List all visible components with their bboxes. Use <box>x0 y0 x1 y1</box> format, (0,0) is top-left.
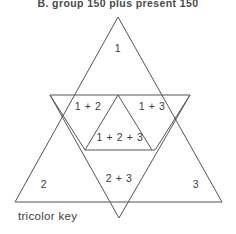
region-label-2-plus-3: 2 + 3 <box>106 172 133 184</box>
tricolor-key-diagram <box>0 0 236 234</box>
inverted-triangle <box>50 95 190 218</box>
region-label-1-plus-3: 1 + 3 <box>139 100 166 112</box>
region-label-1-plus-2: 1 + 2 <box>75 100 102 112</box>
region-label-2: 2 <box>41 178 47 190</box>
figure-caption: tricolor key <box>18 210 77 222</box>
region-label-1-plus-2-plus-3: 1 + 2 + 3 <box>97 131 144 143</box>
region-label-1: 1 <box>115 42 121 54</box>
region-label-3: 3 <box>193 178 199 190</box>
figure-root: B. group 150 plus present 150 1 1 + 2 1 … <box>0 0 236 234</box>
